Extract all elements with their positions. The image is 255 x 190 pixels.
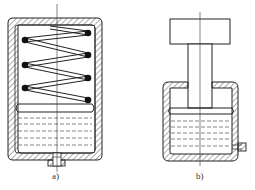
panel-a: [8, 4, 102, 172]
hydraulic-fluid-a: [18, 118, 92, 145]
panel-b-label: b): [196, 171, 204, 181]
diagram-canvas: a) b): [0, 0, 255, 190]
panel-b: [163, 12, 246, 166]
coil-spring: [25, 26, 88, 102]
piston-b: [169, 108, 234, 114]
piston-a: [16, 104, 94, 112]
hydraulic-fluid-b: [171, 121, 231, 146]
panel-a-label: a): [52, 171, 59, 181]
